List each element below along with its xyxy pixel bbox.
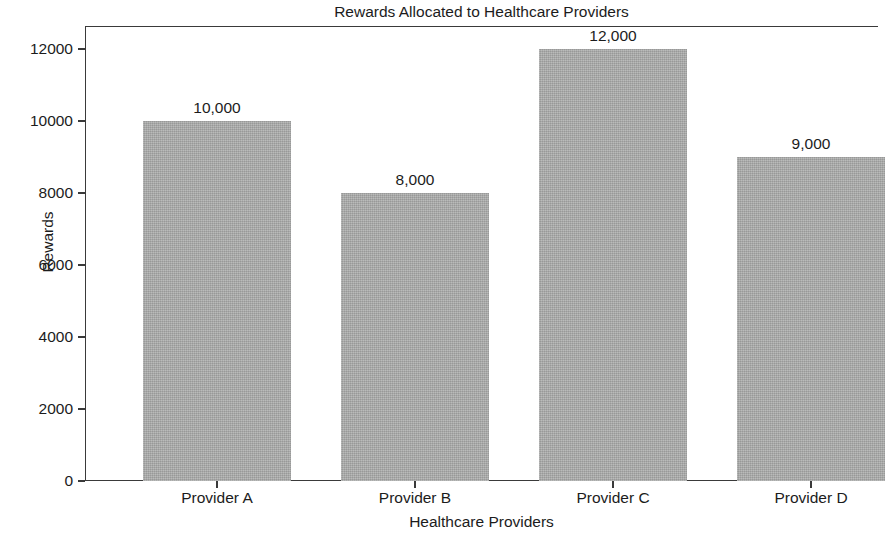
y-tick-label: 6000	[39, 254, 73, 276]
y-tick-label: 2000	[39, 398, 73, 420]
y-tick-label: 12000	[30, 38, 73, 60]
bar-value-label: 10,000	[113, 98, 321, 118]
x-tick-label: Provider C	[514, 487, 712, 509]
y-tick-label: 10000	[30, 110, 73, 132]
bar-value-label: 8,000	[311, 170, 519, 190]
bar-value-label: 9,000	[707, 134, 889, 154]
bar[interactable]	[539, 49, 687, 481]
bar-value-label: 12,000	[509, 26, 717, 46]
chart-title: Rewards Allocated to Healthcare Provider…	[85, 2, 878, 22]
y-tick-mark	[78, 48, 85, 50]
y-tick-mark	[78, 408, 85, 410]
bar[interactable]	[737, 157, 885, 481]
x-tick-label: Provider A	[118, 487, 316, 509]
y-tick-label: 0	[64, 470, 73, 492]
x-axis-label: Healthcare Providers	[85, 513, 878, 531]
y-tick-label: 4000	[39, 326, 73, 348]
y-tick-mark	[78, 336, 85, 338]
y-tick-label: 8000	[39, 182, 73, 204]
x-tick-label: Provider B	[316, 487, 514, 509]
y-tick-mark	[78, 120, 85, 122]
x-tick-label: Provider D	[712, 487, 889, 509]
y-tick-mark	[78, 192, 85, 194]
bar[interactable]	[143, 121, 291, 481]
bar[interactable]	[341, 193, 489, 481]
y-tick-mark	[78, 480, 85, 482]
y-tick-mark	[78, 264, 85, 266]
plot-area: 10,0008,00012,0009,000	[86, 26, 878, 481]
